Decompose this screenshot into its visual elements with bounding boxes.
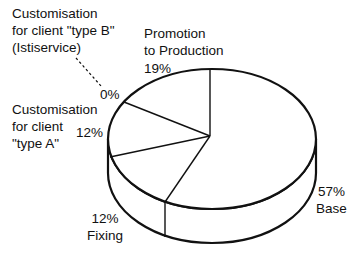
label-typeB-line1: Customisation xyxy=(12,5,115,22)
pie-top-face xyxy=(108,69,316,209)
label-typeB-line3: (Istiservice) xyxy=(12,39,115,56)
label-promotion-line2: to Production xyxy=(144,42,224,59)
label-typeA-pct: 12% xyxy=(76,124,103,141)
leader-line-typeB xyxy=(76,58,101,86)
label-fixing-pct: 12% xyxy=(87,210,123,227)
label-promotion-pct: 19% xyxy=(144,60,171,77)
label-promotion: Promotion to Production xyxy=(144,25,224,59)
label-fixing: 12% Fixing xyxy=(87,210,123,244)
label-fixing-line1: Fixing xyxy=(87,227,123,244)
label-base: 57% Base xyxy=(316,183,347,217)
label-typeB-line2: for client "type B" xyxy=(12,22,115,39)
label-promotion-line1: Promotion xyxy=(144,25,224,42)
label-typeB: Customisation for client "type B" (Istis… xyxy=(12,5,115,56)
label-base-pct: 57% xyxy=(316,183,347,200)
label-typeA-line1: Customisation xyxy=(12,101,98,118)
label-base-line1: Base xyxy=(316,200,347,217)
label-typeB-pct: 0% xyxy=(100,86,120,103)
